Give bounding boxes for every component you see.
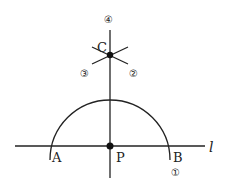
label-l: l	[209, 139, 213, 155]
label-c: C	[97, 40, 107, 55]
label-p: P	[116, 150, 125, 165]
label-b: B	[173, 150, 183, 165]
point-c	[107, 52, 113, 58]
label-a: A	[51, 150, 62, 165]
step-label-1: ①	[171, 167, 180, 178]
step-label-3: ③	[80, 68, 89, 79]
point-p	[107, 143, 114, 150]
step-label-2: ②	[129, 68, 138, 79]
step-label-4: ④	[104, 14, 113, 25]
construction-diagram: ④ C ③ ② A P B ① l	[0, 0, 226, 189]
